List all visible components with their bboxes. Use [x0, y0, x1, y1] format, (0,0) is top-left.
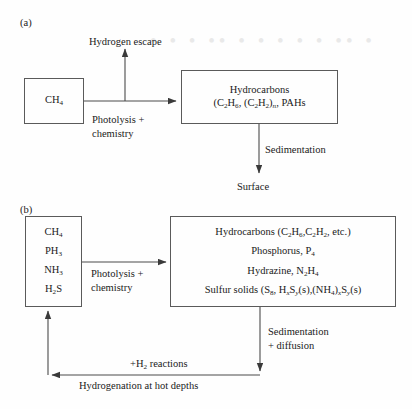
label-a-sedimentation: Sedimentation	[265, 143, 326, 157]
label-a-surface: Surface	[237, 180, 269, 194]
species-item: NH3	[44, 265, 63, 277]
species-item: H2S	[45, 284, 62, 296]
product-line: Hydrocarbons (C2H6,C2H2, etc.)	[215, 225, 350, 240]
box-a-hydrocarbons-title: Hydrocarbons	[230, 83, 289, 96]
box-a-hydrocarbons: Hydrocarbons (C2H6, (C2H2)n, PAHs	[181, 70, 338, 124]
label-b-photolysis: Photolysis + chemistry	[91, 267, 143, 294]
species-item: CH4	[44, 227, 62, 239]
box-b-products: Hydrocarbons (C2H6,C2H2, etc.) Phosphoru…	[170, 216, 396, 307]
panel-b-label: (b)	[20, 204, 32, 215]
product-line: Hydrazine, N2H4	[247, 264, 318, 279]
box-a-hydrocarbons-formula: (C2H6, (C2H2)n, PAHs	[213, 96, 305, 111]
box-b-reduced-species: CH4 PH3 NH3 H2S	[25, 216, 82, 307]
scan-artifact-watermark: • • • •• • • • • • •• •	[150, 30, 412, 62]
figure-container: • • • •• • • • • • •• • (a) Hydrogen	[0, 0, 412, 409]
species-item: PH3	[45, 246, 62, 258]
product-line: Phosphorus, P4	[251, 244, 315, 259]
label-a-photolysis: Photolysis + chemistry	[92, 113, 144, 140]
label-b-sedimentation: Sedimentation + diffusion	[268, 325, 329, 352]
box-a-methane-source: CH4	[24, 78, 84, 124]
label-b-h2-reactions: +H2 reactions	[130, 357, 188, 372]
label-hydrogen-escape: Hydrogen escape	[89, 35, 162, 49]
label-b-hydrogenation: Hydrogenation at hot depths	[79, 379, 198, 393]
panel-a-label: (a)	[20, 17, 32, 28]
box-a-methane-label: CH4	[45, 93, 63, 108]
product-line: Sulfur solids (S8, HxSy(s),(NH4)xSy(s)	[205, 283, 362, 298]
